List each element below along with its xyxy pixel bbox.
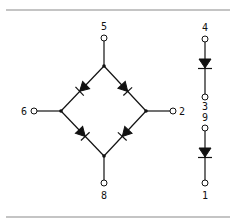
discrete-diode-9-1: 9 1 bbox=[198, 112, 212, 201]
label-8: 8 bbox=[101, 190, 107, 201]
terminal-6 bbox=[31, 108, 37, 114]
terminal-4 bbox=[202, 36, 208, 42]
top-node bbox=[102, 64, 106, 68]
label-1: 1 bbox=[202, 190, 208, 201]
terminal-8 bbox=[101, 180, 107, 186]
label-5: 5 bbox=[101, 21, 107, 32]
terminal-9 bbox=[202, 125, 208, 131]
diode-triangle bbox=[199, 59, 211, 68]
label-4: 4 bbox=[202, 22, 208, 33]
terminal-5 bbox=[101, 35, 107, 41]
label-9: 9 bbox=[202, 112, 208, 123]
label-6: 6 bbox=[21, 106, 27, 117]
discrete-diode-4-3: 4 3 bbox=[198, 22, 212, 112]
bottom-node bbox=[102, 154, 106, 158]
left-node bbox=[59, 109, 63, 113]
terminal-2 bbox=[170, 108, 176, 114]
terminal-3 bbox=[202, 94, 208, 100]
diode-triangle bbox=[199, 148, 211, 157]
terminal-1 bbox=[202, 180, 208, 186]
schematic-diagram: 5 2 8 6 4 3 9 1 bbox=[0, 0, 233, 221]
diode-bridge: 5 2 8 6 bbox=[21, 21, 185, 201]
label-3: 3 bbox=[202, 101, 208, 112]
label-2: 2 bbox=[179, 106, 185, 117]
right-node bbox=[144, 109, 148, 113]
